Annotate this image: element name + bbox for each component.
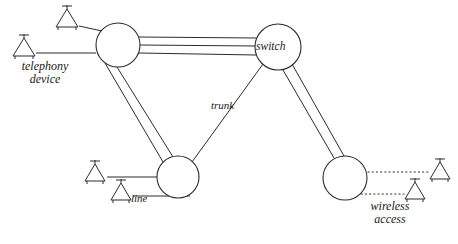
link-telephony-device-top [79,26,102,31]
edge-left-to-switch [139,37,256,55]
wireless-access-node[interactable] [323,156,367,200]
wireless-access-label: wireless access [347,200,433,227]
node-circles [96,23,367,200]
edge-line [140,45,255,46]
edge-line [105,63,163,162]
telephony-device-label: telephony device [6,60,84,87]
edge-line [192,64,263,162]
edge-switch-to-wireless [283,64,344,158]
telephony-device-icon[interactable] [430,158,450,182]
trunk-edge-label: trunk [211,99,234,111]
edge-line [139,53,256,55]
edge-left-to-lower [105,63,173,162]
telephony-device-label-line1: telephony [6,60,84,73]
edge-line [292,64,344,156]
edge-switch-to-lower [192,64,263,162]
lower-switch-node[interactable] [157,156,199,198]
switch-node-label: switch [256,40,285,53]
wireless-access-label-line2: access [347,213,433,226]
telephony-device-icon[interactable] [85,160,105,184]
network-diagram: switch trunk line telephony device wirel… [0,0,458,244]
left-switch-node[interactable] [96,23,140,67]
edge-line [283,70,334,158]
telephony-device-label-line2: device [6,73,84,86]
line-edge-label: line [131,192,148,204]
telephony-device-icon[interactable] [111,179,131,203]
wireless-links [357,172,428,194]
edge-line [117,67,173,157]
telephony-device-icon[interactable] [56,5,78,30]
edge-line [139,37,256,38]
wireless-access-label-line1: wireless [347,200,433,213]
telephony-device-icon[interactable] [13,34,35,59]
